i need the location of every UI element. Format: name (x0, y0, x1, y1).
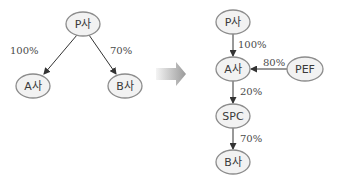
node-label: P사 (225, 16, 242, 29)
node-left-p: P사 (66, 12, 100, 36)
node-right-pef: PEF (287, 57, 323, 81)
node-label: PEF (295, 63, 315, 76)
node-right-p: P사 (216, 10, 250, 34)
ownership-diagram: 100% 70% P사 A사 B사 100% 80% 20% 70% P사 (0, 0, 339, 183)
node-label: SPC (222, 110, 244, 123)
right-arrow-icon (156, 62, 186, 86)
node-right-spc: SPC (216, 104, 250, 128)
right-structure: 100% 80% 20% 70% P사 A사 PEF SPC B사 (216, 10, 323, 174)
edge-p-to-a (44, 35, 77, 74)
edge-label-p-a: 100% (10, 45, 39, 56)
node-right-a: A사 (216, 57, 250, 81)
node-label: A사 (224, 63, 242, 76)
edge-label-spc-b: 70% (240, 133, 262, 144)
node-label: P사 (75, 18, 92, 31)
node-left-a: A사 (16, 74, 50, 98)
node-label: B사 (116, 80, 134, 93)
edge-label-a-spc: 20% (240, 86, 262, 97)
edge-label-p-b: 70% (110, 45, 132, 56)
left-structure: 100% 70% P사 A사 B사 (10, 12, 142, 98)
node-right-b: B사 (216, 150, 250, 174)
edge-label-pef-a: 80% (263, 57, 285, 68)
node-label: B사 (224, 156, 242, 169)
node-left-b: B사 (108, 74, 142, 98)
node-label: A사 (24, 80, 42, 93)
edge-label-p-a: 100% (238, 39, 267, 50)
